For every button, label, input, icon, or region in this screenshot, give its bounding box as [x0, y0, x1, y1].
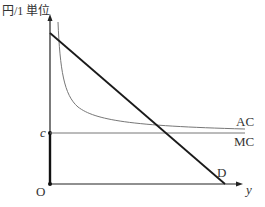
y-axis-label: 円/1 単位 [2, 3, 50, 18]
origin-label: O [36, 184, 45, 199]
origin-point [48, 182, 52, 186]
mc-label: MC [234, 134, 254, 149]
x-axis-label: y [244, 182, 252, 197]
c-label: c [40, 125, 46, 140]
x-axis-arrow-icon [236, 182, 243, 187]
ac-curve [58, 22, 245, 129]
ac-label: AC [236, 114, 254, 129]
demand-line [50, 33, 225, 184]
chart-canvas: 円/1 単位 y O c AC MC D [0, 0, 265, 207]
demand-label: D [217, 165, 226, 180]
